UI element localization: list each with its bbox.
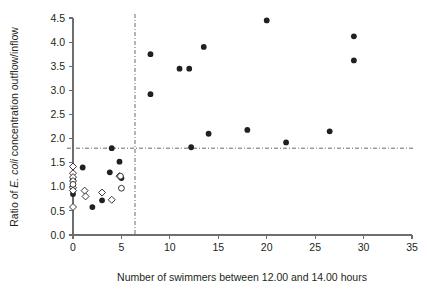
x-tick-label: 15 (212, 241, 224, 253)
data-point-filled-circle (351, 58, 357, 64)
data-point-open-circle (70, 181, 76, 187)
data-point-filled-circle (206, 131, 212, 137)
x-tick-label: 25 (309, 241, 321, 253)
x-axis-title: Number of swimmers between 12.00 and 14.… (117, 271, 367, 283)
data-point-filled-circle (117, 159, 123, 165)
data-point-filled-circle (109, 145, 115, 151)
data-point-filled-circle (264, 18, 270, 24)
x-tick-label: 0 (70, 241, 76, 253)
data-point-filled-circle (89, 204, 95, 210)
x-tick-label: 10 (164, 241, 176, 253)
y-axis-title: Ratio of E. coli concentration outflow/i… (8, 27, 20, 227)
x-tick-label: 30 (358, 241, 370, 253)
data-point-filled-circle (177, 66, 183, 72)
y-axis-title-group: Ratio of E. coli concentration outflow/i… (8, 27, 20, 227)
data-point-filled-circle (148, 51, 154, 57)
x-tick-label: 20 (261, 241, 273, 253)
y-tick-label: 0.5 (50, 205, 65, 217)
y-tick-label: 4.0 (50, 36, 65, 48)
y-tick-label: 1.5 (50, 156, 65, 168)
data-point-filled-circle (351, 33, 357, 39)
data-point-filled-circle (80, 165, 86, 171)
data-point-open-circle (118, 173, 124, 179)
data-point-open-circle (119, 185, 125, 191)
data-point-filled-circle (99, 197, 105, 203)
y-tick-label: 3.5 (50, 60, 65, 72)
y-tick-label: 4.5 (50, 12, 65, 24)
data-point-filled-circle (244, 127, 250, 133)
data-point-filled-circle (327, 128, 333, 134)
x-tick-label: 35 (406, 241, 418, 253)
scatter-plot: 0.00.51.01.52.02.53.03.54.04.5 051015202… (0, 0, 427, 290)
data-point-filled-circle (148, 91, 154, 97)
y-tick-label: 0.0 (50, 229, 65, 241)
x-tick-label: 5 (119, 241, 125, 253)
data-point-filled-circle (107, 169, 113, 175)
data-point-filled-circle (186, 66, 192, 72)
y-tick-label: 2.5 (50, 108, 65, 120)
y-tick-label: 2.0 (50, 132, 65, 144)
y-tick-label: 3.0 (50, 84, 65, 96)
data-point-filled-circle (283, 140, 289, 146)
y-tick-label: 1.0 (50, 180, 65, 192)
data-point-filled-circle (188, 144, 194, 150)
figure-container: 0.00.51.01.52.02.53.03.54.04.5 051015202… (0, 0, 427, 290)
data-point-filled-circle (201, 44, 207, 50)
